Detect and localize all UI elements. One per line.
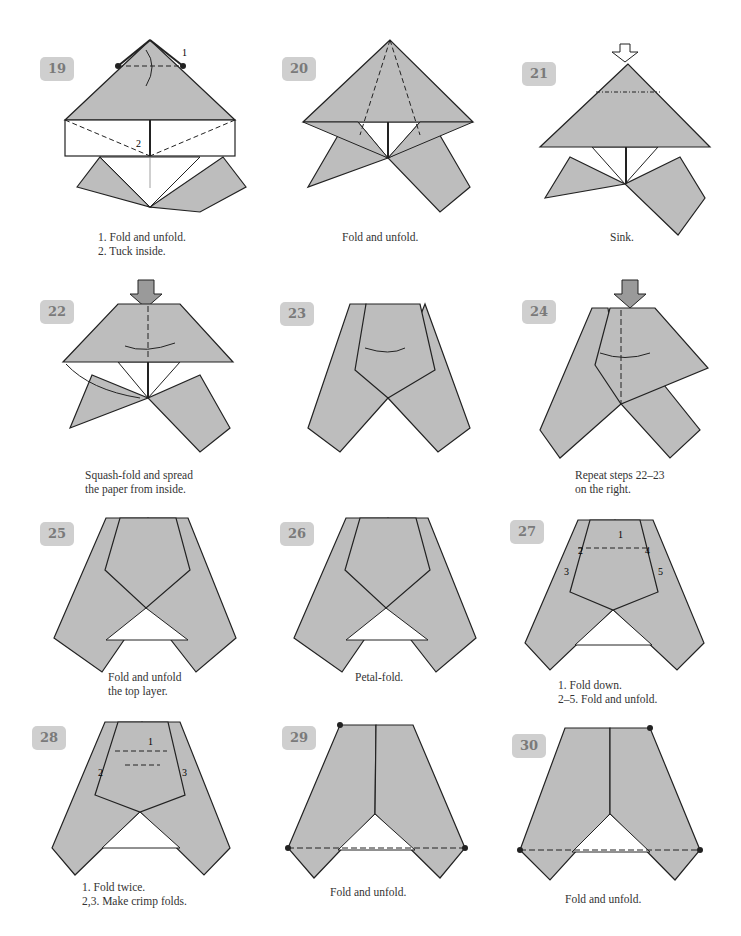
- fold-diagram-24: [510, 280, 741, 480]
- step-26: 26 Petal-fold.: [270, 510, 505, 740]
- step-28: 28 1 2 3 1. Fold twice. 2,3. Make crimp …: [30, 710, 265, 936]
- fold-diagram-29: [270, 710, 505, 910]
- step-24: 24 Repeat steps 22–23 on the right.: [510, 280, 741, 510]
- step-30: 30 Fold and unfold.: [510, 710, 741, 936]
- fold-label: 2: [136, 138, 141, 149]
- push-arrow-icon: [614, 280, 646, 308]
- step-caption: Fold and unfold.: [330, 885, 406, 899]
- step-caption: Sink.: [610, 230, 634, 244]
- fold-label: 2: [578, 545, 583, 556]
- step-caption: 1. Fold twice. 2,3. Make crimp folds.: [82, 880, 187, 908]
- step-20: 20 Fold and unfold.: [270, 40, 505, 270]
- step-21: 21 Sink.: [510, 40, 741, 270]
- fold-label: 1: [618, 529, 623, 540]
- step-caption: Fold and unfold.: [342, 230, 418, 244]
- fold-label: 3: [182, 767, 187, 778]
- fold-label: 3: [564, 566, 569, 577]
- step-27: 27 1 2 3 4 5 1. Fold down. 2–5. Fold and…: [510, 510, 741, 740]
- step-caption: 1. Fold down. 2–5. Fold and unfold.: [558, 678, 657, 706]
- fold-label: 1: [182, 47, 187, 58]
- fold-label: 1: [148, 736, 153, 747]
- fold-label: 4: [645, 545, 650, 556]
- fold-diagram-20: [270, 40, 505, 240]
- step-caption: Fold and unfold.: [565, 892, 641, 906]
- step-19: 19 1 2 1. Fold and unfold. 2. Tuck insid…: [30, 40, 265, 270]
- step-caption: Squash-fold and spread the paper from in…: [85, 468, 193, 496]
- fold-diagram-19: 1 2: [30, 40, 265, 240]
- fold-diagram-23: [270, 280, 505, 480]
- step-caption: 1. Fold and unfold. 2. Tuck inside.: [98, 230, 186, 258]
- step-caption: Fold and unfold the top layer.: [108, 670, 181, 698]
- step-29: 29 Fold and unfold.: [270, 710, 505, 936]
- step-22: 22 Squash-fold and spread the paper from…: [30, 280, 265, 510]
- fold-diagram-22: [30, 280, 265, 480]
- step-23: 23: [270, 280, 505, 510]
- step-25: 25 Fold and unfold the top layer.: [30, 510, 265, 740]
- fold-diagram-30: [510, 710, 741, 910]
- step-caption: Petal-fold.: [355, 670, 403, 684]
- fold-label: 2: [98, 767, 103, 778]
- step-caption: Repeat steps 22–23 on the right.: [575, 468, 664, 496]
- fold-diagram-21: [510, 40, 741, 240]
- fold-label: 5: [658, 566, 663, 577]
- push-arrow-icon: [612, 44, 638, 62]
